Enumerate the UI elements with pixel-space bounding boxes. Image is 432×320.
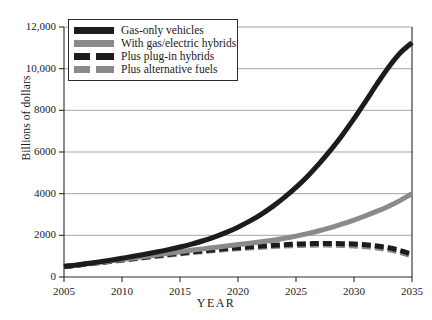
- x-axis-tick-label: 2015: [155, 285, 205, 297]
- legend-swatch-solid-gray-icon: [74, 40, 114, 47]
- legend-label: Gas-only vehicles: [121, 24, 204, 37]
- x-axis-tick-label: 2020: [213, 285, 263, 297]
- y-axis-tick-label: 0: [51, 270, 57, 282]
- y-axis-tick-label: 2000: [34, 228, 56, 240]
- y-axis-tick-label: 4000: [34, 187, 56, 199]
- legend-swatch-dashed-gray-icon: [74, 66, 114, 73]
- y-axis-tick-label: 6000: [34, 145, 56, 157]
- y-axis-tick-label: 8000: [34, 103, 56, 115]
- legend-item-plugin-hybrids: Plus plug-in hybrids: [74, 50, 232, 63]
- legend-item-gas-electric-hybrids: With gas/electric hybrids: [74, 37, 232, 50]
- legend-swatch-solid-dark-icon: [74, 27, 114, 34]
- legend-item-gas-only: Gas-only vehicles: [74, 24, 232, 37]
- legend-label: Plus alternative fuels: [121, 63, 217, 76]
- x-axis-tick-label: 2005: [39, 285, 89, 297]
- x-axis-tick-label: 2010: [97, 285, 147, 297]
- x-axis-label: YEAR: [0, 296, 432, 311]
- y-axis-tick-label: 12,000: [26, 20, 56, 32]
- chart-legend: Gas-only vehicles With gas/electric hybr…: [68, 19, 238, 81]
- chart-figure: Billions of dollars YEAR Gas-only vehicl…: [0, 0, 432, 320]
- y-axis-tick-label: 10,000: [26, 62, 56, 74]
- series-line: [64, 194, 412, 267]
- x-axis-tick-label: 2030: [329, 285, 379, 297]
- x-axis-tick-label: 2025: [271, 285, 321, 297]
- legend-item-alternative-fuels: Plus alternative fuels: [74, 63, 232, 76]
- legend-swatch-dashed-dark-icon: [74, 53, 114, 60]
- legend-label: With gas/electric hybrids: [121, 37, 236, 50]
- x-axis-tick-label: 2035: [387, 285, 432, 297]
- legend-label: Plus plug-in hybrids: [121, 50, 214, 63]
